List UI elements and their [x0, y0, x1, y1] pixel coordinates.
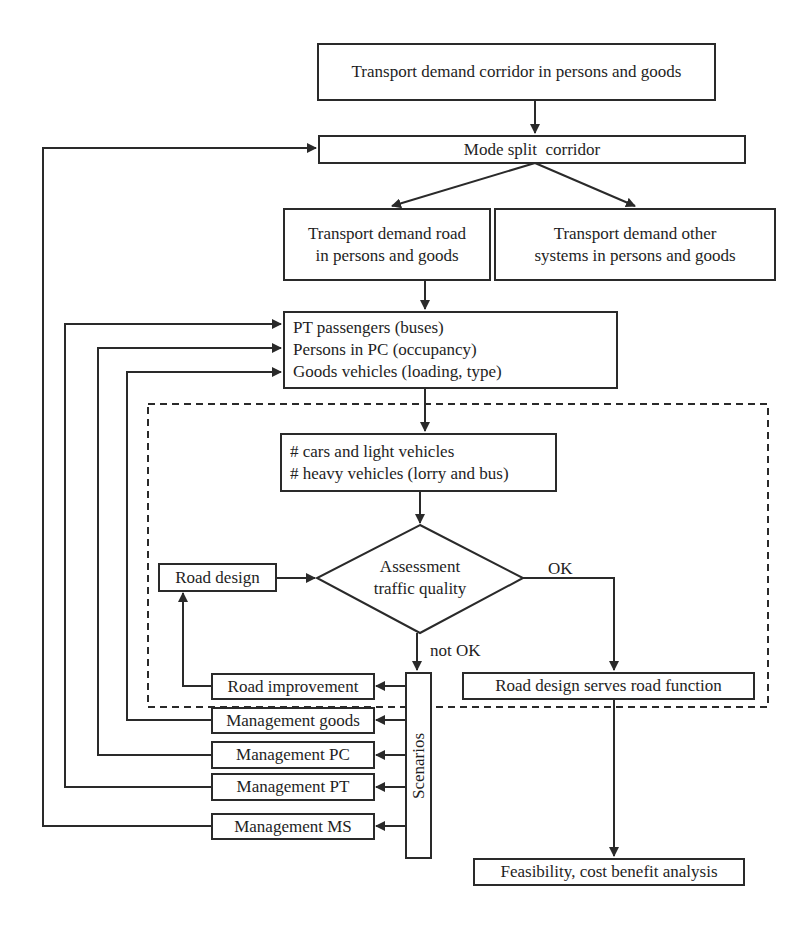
node-scenarios: Scenarios — [405, 672, 432, 859]
node-occupancy-pc: Persons in PC (occupancy) — [293, 339, 477, 361]
edge-label-not-ok: not OK — [430, 641, 481, 661]
scenario-management-goods: Management goods — [211, 707, 375, 734]
node-vehicles-heavy: # heavy vehicles (lorry and bus) — [290, 463, 509, 485]
edge-label-ok: OK — [548, 559, 573, 579]
scenario-management-ms-label: Management MS — [234, 816, 352, 838]
node-demand-other-line1: Transport demand other — [554, 223, 717, 245]
scenario-management-pc-label: Management PC — [236, 744, 350, 766]
scenario-road-improvement: Road improvement — [211, 673, 375, 700]
scenario-road-improvement-label: Road improvement — [228, 676, 359, 698]
node-road-function-label: Road design serves road function — [495, 675, 722, 697]
node-scenarios-label: Scenarios — [409, 732, 429, 798]
node-demand-corridor-label: Transport demand corridor in persons and… — [352, 61, 682, 83]
scenario-management-goods-label: Management goods — [226, 710, 360, 732]
node-road-design: Road design — [158, 563, 277, 592]
node-demand-road-line1: Transport demand road — [308, 223, 466, 245]
node-demand-road: Transport demand road in persons and goo… — [283, 208, 491, 281]
node-assessment: Assessment traffic quality — [340, 556, 500, 600]
node-feasibility: Feasibility, cost benefit analysis — [473, 858, 745, 886]
node-assessment-line2: traffic quality — [340, 578, 500, 600]
node-road-design-label: Road design — [175, 567, 260, 589]
node-vehicles-light: # cars and light vehicles — [290, 441, 454, 463]
node-vehicles: # cars and light vehicles # heavy vehicl… — [280, 433, 557, 492]
scenario-management-pt-label: Management PT — [237, 776, 350, 798]
node-occupancy-goods: Goods vehicles (loading, type) — [293, 361, 502, 383]
node-road-function: Road design serves road function — [462, 672, 755, 700]
node-feasibility-label: Feasibility, cost benefit analysis — [500, 861, 717, 883]
node-occupancy: PT passengers (buses) Persons in PC (occ… — [283, 311, 618, 389]
scenario-management-pc: Management PC — [211, 741, 375, 769]
node-mode-split-label: Mode split corridor — [464, 139, 600, 161]
node-demand-other-line2: systems in persons and goods — [534, 245, 735, 267]
node-demand-road-line2: in persons and goods — [315, 245, 458, 267]
node-demand-other: Transport demand other systems in person… — [494, 208, 776, 281]
node-mode-split: Mode split corridor — [318, 135, 746, 164]
node-assessment-line1: Assessment — [340, 556, 500, 578]
node-occupancy-pt: PT passengers (buses) — [293, 317, 444, 339]
scenario-management-ms: Management MS — [211, 813, 375, 840]
scenario-management-pt: Management PT — [211, 773, 375, 801]
node-demand-corridor: Transport demand corridor in persons and… — [317, 43, 716, 101]
